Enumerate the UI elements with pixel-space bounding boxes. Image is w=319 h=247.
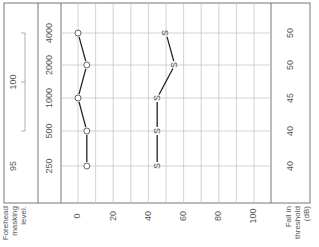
frequency-tick-label: 250 [44,158,54,173]
marker-s-point: S [160,30,170,36]
forehead-masking-label: level. [19,206,28,225]
level-tick-label: 100 [248,208,258,223]
level-tick-label: 20 [108,211,118,221]
level-tick-label: 60 [178,211,188,221]
fall-in-threshold-label: Fall in [284,206,293,227]
fall-in-threshold-value: 50 [285,60,295,70]
marker-o-point [75,30,81,36]
frequency-tick-label: 4000 [44,23,54,43]
level-tick-label: 0 [72,213,82,218]
marker-o-point [75,95,81,101]
marker-s-point: S [152,163,162,169]
marker-o-point [84,163,90,169]
fall-in-threshold-value: 45 [285,93,295,103]
forehead-masking-label: masking [10,206,19,236]
series-1-segment [167,37,174,61]
fall-in-threshold-value: 40 [285,161,295,171]
fall-in-threshold-value: 50 [285,28,295,38]
masking-level-value: 95 [8,161,18,171]
series-0-segment [79,102,86,127]
series-0-segment [79,69,86,94]
masking-level-value: 100 [8,74,18,89]
fall-in-threshold-value: 40 [285,126,295,136]
marker-s-point: S [152,128,162,134]
audiogram-chart: SSSSS 2505001000200040000204060801009510… [0,0,319,247]
fall-in-threshold-label: threshold [293,206,302,239]
frequency-tick-label: 1000 [44,88,54,108]
masking-bracket [21,33,25,131]
frequency-tick-label: 500 [44,123,54,138]
level-tick-label: 80 [213,211,223,221]
marker-o-point [84,62,90,68]
marker-s-point: S [152,95,162,101]
fall-in-threshold-label: (dB) [302,206,311,221]
marker-s-point: S [169,62,179,68]
marker-o-point [84,128,90,134]
frequency-tick-label: 2000 [44,55,54,75]
series-0-segment [79,37,86,61]
level-tick-label: 40 [143,211,153,221]
forehead-masking-label: Forehead [1,206,10,240]
series-layer: SSSSS [75,30,179,169]
